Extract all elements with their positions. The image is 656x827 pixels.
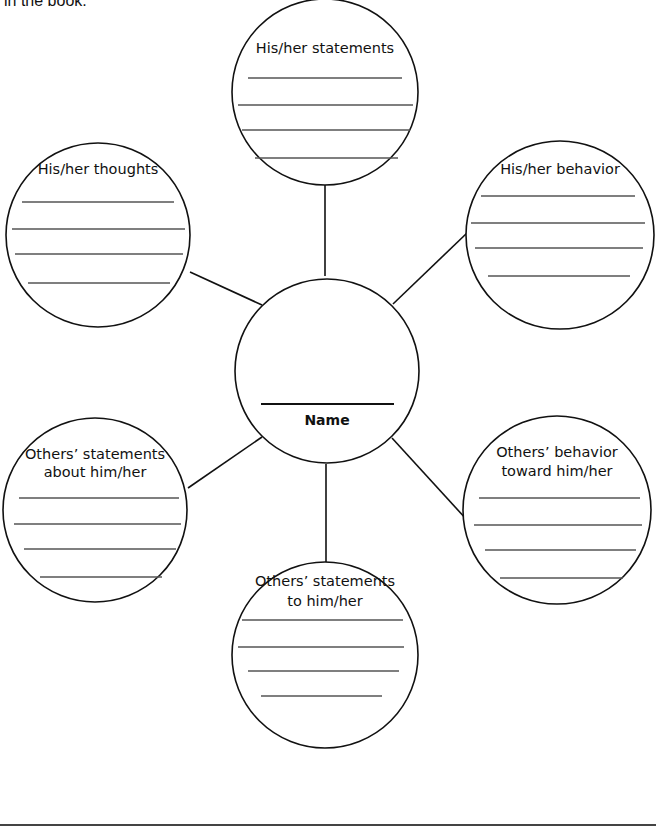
bubble-label-line-1: Others’ statements xyxy=(25,446,165,462)
bubble-label: His/her statements xyxy=(256,40,394,56)
connector-top-right xyxy=(393,233,467,304)
page-bottom-rule xyxy=(0,824,656,826)
name-label: Name xyxy=(304,412,349,428)
bubble-label-line-2: toward him/her xyxy=(501,463,612,479)
bubble-label-line-2: about him/her xyxy=(44,464,147,480)
bubble-others-behavior-toward: Others’ behavior toward him/her xyxy=(463,416,651,604)
bubble-label-line-1: Others’ statements xyxy=(255,573,395,589)
bubble-his-her-statements: His/her statements xyxy=(232,0,418,185)
bubble-label: His/her behavior xyxy=(500,161,620,177)
center-name-bubble: Name xyxy=(235,279,419,463)
connector-top-left xyxy=(190,272,262,305)
bubble-his-her-behavior: His/her behavior xyxy=(466,141,654,329)
bubble-others-statements-about: Others’ statements about him/her xyxy=(3,418,187,602)
bubble-others-statements-to: Others’ statements to him/her xyxy=(232,562,418,748)
bubble-label: His/her thoughts xyxy=(38,161,159,177)
bubble-label-line-1: Others’ behavior xyxy=(496,444,618,460)
connector-bottom-right xyxy=(392,438,467,520)
bubble-his-her-thoughts: His/her thoughts xyxy=(6,143,190,327)
character-web-diagram: His/her statements His/her thoughts His/… xyxy=(0,0,656,827)
bubble-label-line-2: to him/her xyxy=(287,593,363,609)
connector-bottom-left xyxy=(188,437,262,488)
